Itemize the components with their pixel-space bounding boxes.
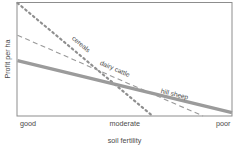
x-tick-good: good	[20, 119, 36, 128]
x-axis-title: soil fertility	[108, 136, 142, 145]
series-layer	[18, 3, 233, 116]
profit-vs-soil-fertility-chart: cerealsdairy cattlehill sheep goodmodera…	[0, 0, 246, 150]
series-label-layer: cerealsdairy cattlehill sheep	[71, 35, 189, 102]
x-tick-moderate: moderate	[110, 119, 140, 128]
chart-container: cerealsdairy cattlehill sheep goodmodera…	[0, 0, 246, 150]
series-label-cereals: cereals	[71, 35, 92, 54]
y-axis-title: Profit per ha	[3, 39, 12, 78]
x-axis-tick-labels: goodmoderatepoor	[20, 119, 231, 128]
series-line-cereals	[18, 3, 153, 116]
series-line-dairy-cattle	[18, 35, 204, 116]
x-tick-poor: poor	[216, 119, 231, 128]
plot-frame	[17, 3, 232, 117]
